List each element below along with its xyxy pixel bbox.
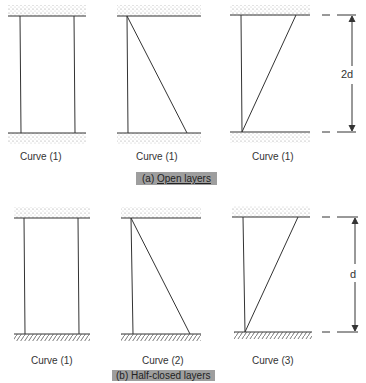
curve-label: Curve (1) <box>31 355 73 366</box>
caption-prefix: (b) <box>116 370 128 381</box>
panel-a2 <box>117 5 201 144</box>
panel-a3 <box>230 5 310 143</box>
curve-label: Curve (1) <box>20 151 62 162</box>
curve-label: Curve (2) <box>142 355 184 366</box>
caption-open-layers: (a) Open layers <box>136 172 217 185</box>
caption-half-closed-layers: (b) Half-closed layers <box>112 370 215 381</box>
curve-label: Curve (3) <box>252 355 294 366</box>
panel-b1 <box>14 207 90 341</box>
dimension-label: d <box>350 268 356 280</box>
caption-text: Half-closed layers <box>131 370 210 381</box>
panel-b3 <box>232 206 312 339</box>
consolidation-diagram <box>0 0 366 383</box>
caption-text: Open layers <box>157 173 211 184</box>
curve-label: Curve (1) <box>252 151 294 162</box>
caption-prefix: (a) <box>142 173 154 184</box>
dimension-label: 2d <box>341 68 353 80</box>
panel-a1 <box>8 5 86 144</box>
curve-label: Curve (1) <box>136 151 178 162</box>
panel-b2 <box>121 207 201 341</box>
